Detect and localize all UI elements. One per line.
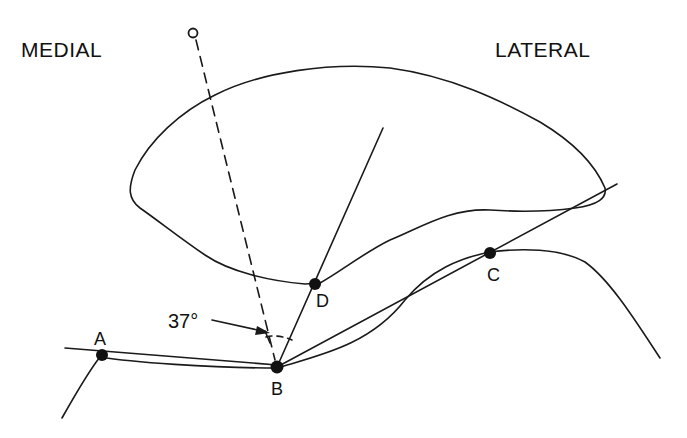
point-b-dot — [271, 361, 284, 374]
point-a-dot — [96, 349, 108, 361]
point-c-label: C — [487, 266, 500, 284]
point-b-label: B — [271, 380, 283, 398]
line-b-c — [277, 184, 617, 367]
medial-label: MEDIAL — [21, 39, 102, 60]
point-d-label: D — [316, 292, 329, 310]
diagram-canvas: MEDIAL LATERAL 37° A B C D — [0, 0, 687, 438]
point-d-dot — [309, 278, 321, 290]
angle-label: 37° — [168, 311, 198, 331]
point-a-label: A — [94, 330, 106, 348]
dashed-reference-line — [196, 40, 275, 360]
upper-contour — [130, 66, 605, 284]
reference-marker-icon — [189, 29, 198, 38]
line-b-d — [277, 128, 383, 367]
lateral-label: LATERAL — [495, 39, 590, 60]
angle-arrow-shaft — [212, 320, 262, 331]
lower-surface-curve — [62, 250, 660, 418]
point-c-dot — [484, 247, 496, 259]
